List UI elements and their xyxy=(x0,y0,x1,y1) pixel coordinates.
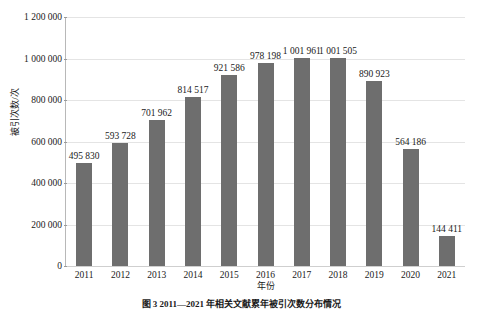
x-axis-title: 年份 xyxy=(246,281,286,291)
y-axis-tick-mark xyxy=(64,266,67,267)
bar xyxy=(112,143,128,266)
x-axis-tick-label: 2014 xyxy=(173,270,213,281)
y-axis-tick-mark xyxy=(64,59,67,60)
y-axis-tick-mark xyxy=(64,225,67,226)
bar-value-label: 1 001 505 xyxy=(311,46,365,56)
bar xyxy=(221,75,237,266)
bar-value-label: 593 728 xyxy=(93,131,147,141)
bar xyxy=(149,120,165,266)
y-axis-tick-label: 400 000 xyxy=(0,178,62,188)
x-axis-tick-label: 2016 xyxy=(246,270,286,281)
y-axis-tick-label: 0 xyxy=(0,261,62,271)
bar xyxy=(403,149,419,266)
bar-chart-figure: 被引次数/次 0200 000400 000600 000800 0001 00… xyxy=(0,0,483,309)
y-axis-tick-label: 600 000 xyxy=(0,137,62,147)
bar-value-label: 564 186 xyxy=(384,137,438,147)
bar xyxy=(185,97,201,266)
bar-value-label: 701 962 xyxy=(130,108,184,118)
y-axis-tick-mark xyxy=(64,17,67,18)
x-axis-tick-label: 2018 xyxy=(318,270,358,281)
x-axis-tick-label: 2020 xyxy=(391,270,431,281)
y-axis-tick-label: 200 000 xyxy=(0,220,62,230)
gridline xyxy=(66,17,465,18)
x-axis-tick-label: 2021 xyxy=(427,270,467,281)
x-axis-tick-label: 2012 xyxy=(100,270,140,281)
figure-caption: 图 3 2011—2021 年相关文献累年被引次数分布情况 xyxy=(0,299,483,309)
x-axis-tick-label: 2015 xyxy=(209,270,249,281)
bar xyxy=(76,163,92,266)
bar xyxy=(258,63,274,266)
axis-baseline xyxy=(66,266,465,267)
y-axis-tick-label: 1 200 000 xyxy=(0,12,62,22)
y-axis-tick-mark xyxy=(64,100,67,101)
bar xyxy=(366,81,382,266)
y-axis-tick-mark xyxy=(64,183,67,184)
x-axis-tick-label: 2011 xyxy=(64,270,104,281)
x-axis-tick-label: 2019 xyxy=(354,270,394,281)
bar-value-label: 495 830 xyxy=(57,151,111,161)
bar-value-label: 144 411 xyxy=(420,224,474,234)
bar xyxy=(294,58,310,266)
bar-value-label: 921 586 xyxy=(202,63,256,73)
bar-value-label: 890 923 xyxy=(347,69,401,79)
bar xyxy=(439,236,455,266)
y-axis-tick-label: 800 000 xyxy=(0,95,62,105)
y-axis-tick-mark xyxy=(64,142,67,143)
bar xyxy=(330,58,346,266)
x-axis-tick-label: 2017 xyxy=(282,270,322,281)
bar-value-label: 814 517 xyxy=(166,85,220,95)
x-axis-tick-label: 2013 xyxy=(137,270,177,281)
y-axis-tick-label: 1 000 000 xyxy=(0,54,62,64)
y-axis-tick-labels: 0200 000400 000600 000800 0001 000 0001 … xyxy=(0,0,62,309)
